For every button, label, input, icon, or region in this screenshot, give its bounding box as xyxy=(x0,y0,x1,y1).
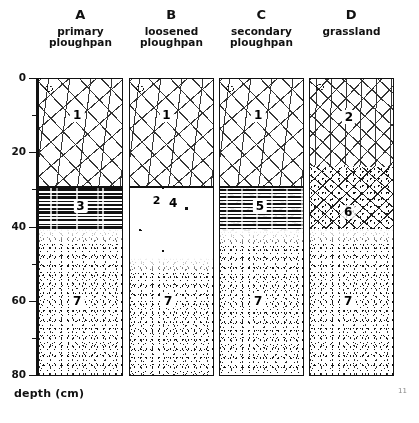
column-caption-a-line2: ploughpan xyxy=(38,37,123,49)
soil-profile-column-b: 1 2 4 7 xyxy=(129,78,214,376)
axis-caption: depth (cm) xyxy=(14,387,84,400)
horizon-label-c-7: 7 xyxy=(251,294,265,308)
axis-tick-50 xyxy=(32,264,37,265)
axis-label-60: 60 xyxy=(0,294,26,306)
column-caption-b-line2: ploughpan xyxy=(129,37,214,49)
horizon-label-c-1: 1 xyxy=(251,108,265,122)
axis-tick-60 xyxy=(29,301,37,302)
horizon-label-d-2: 2 xyxy=(342,110,356,124)
column-caption-c-line2: ploughpan xyxy=(219,37,304,49)
soil-profile-column-a: 1 3 7 xyxy=(38,78,123,376)
column-letter-b: B xyxy=(129,8,214,23)
horizon-label-b-1: 1 xyxy=(159,108,173,122)
soil-profile-figure: A primary ploughpan B loosened ploughpan… xyxy=(0,0,419,423)
axis-label-80: 80 xyxy=(0,368,26,380)
axis-tick-70 xyxy=(32,338,37,339)
horizon-label-c-5: 5 xyxy=(253,199,267,213)
axis-tick-0 xyxy=(29,78,37,79)
column-header-b: B loosened ploughpan xyxy=(129,8,214,49)
horizon-label-b-4: 4 xyxy=(166,196,180,210)
column-letter-a: A xyxy=(38,8,123,23)
horizon-label-a-1: 1 xyxy=(70,108,84,122)
horizon-label-a-7: 7 xyxy=(70,294,84,308)
axis-label-20: 20 xyxy=(0,145,26,157)
horizon-label-b-2: 2 xyxy=(151,194,163,207)
horizon-b-crumb xyxy=(130,79,213,187)
axis-tick-80 xyxy=(29,375,37,376)
soil-profile-column-d: 2 6 7 xyxy=(309,78,394,376)
axis-tick-40 xyxy=(29,227,37,228)
column-header-d: D grassland xyxy=(309,8,394,37)
column-caption-d-line1: grassland xyxy=(309,26,394,38)
column-letter-d: D xyxy=(309,8,394,23)
horizon-d-fine-crumb xyxy=(310,79,393,171)
axis-tick-30 xyxy=(32,189,37,190)
horizon-label-d-6: 6 xyxy=(341,205,355,219)
horizon-a-crumb xyxy=(39,79,122,187)
column-header-c: C secondary ploughpan xyxy=(219,8,304,49)
horizon-label-d-7: 7 xyxy=(341,294,355,308)
column-letter-c: C xyxy=(219,8,304,23)
horizon-label-b-7: 7 xyxy=(161,294,175,308)
soil-profile-column-c: 1 5 7 xyxy=(219,78,304,376)
horizon-c-crumb xyxy=(220,79,303,187)
axis-label-40: 40 xyxy=(0,220,26,232)
column-header-a: A primary ploughpan xyxy=(38,8,123,49)
axis-tick-10 xyxy=(32,115,37,116)
horizon-b-subsoil xyxy=(130,258,213,376)
corner-mark: 11 xyxy=(398,387,407,395)
axis-tick-20 xyxy=(29,152,37,153)
axis-label-0: 0 xyxy=(0,71,26,83)
horizon-label-a-3: 3 xyxy=(73,199,87,213)
